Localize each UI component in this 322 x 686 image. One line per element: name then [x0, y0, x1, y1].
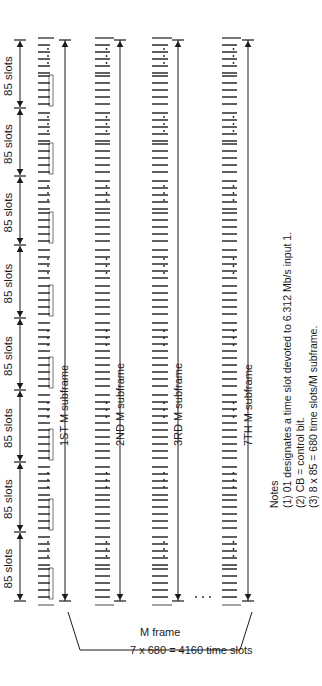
- slot-group-label: 85 slots: [2, 549, 14, 589]
- subframe-label-3: 3RD M subframe: [172, 363, 184, 446]
- bracket-total-label: 7 x 680 = 4160 time slots: [130, 644, 253, 656]
- slot-group-label: 85 slots: [2, 408, 14, 448]
- slot-group-label: 85 slots: [2, 56, 14, 96]
- notes-block: Notes (1) 01 designates a time slot devo…: [268, 232, 320, 508]
- slot-group-label: 85 slots: [2, 124, 14, 164]
- subframe-label-2: 2ND M subframe: [114, 363, 126, 446]
- subframe-label-1: 1ST M subframe: [58, 365, 70, 446]
- note-1: (1) 01 designates a time slot devoted to…: [281, 232, 294, 508]
- subframe-label-7: 7TH M subframe: [242, 364, 254, 446]
- slot-group-label: 85 slots: [2, 193, 14, 233]
- slot-group-label: 85 slots: [2, 336, 14, 376]
- bracket-mframe-label: M frame: [140, 626, 180, 638]
- slot-group-label: 85 slots: [2, 479, 14, 519]
- slot-group-label: 85 slots: [2, 264, 14, 304]
- note-2: (2) CB = control bit.: [294, 232, 307, 508]
- note-3: (3) 8 x 85 = 680 time slots/M subframe.: [307, 232, 320, 508]
- notes-title: Notes: [268, 232, 281, 508]
- m-frame-diagram: 85 slots85 slots85 slots85 slots85 slots…: [0, 0, 322, 686]
